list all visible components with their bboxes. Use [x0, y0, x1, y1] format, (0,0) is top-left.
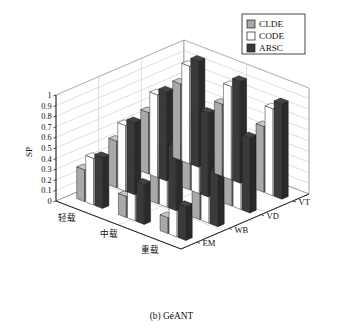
y-tick-label: 0.3 — [41, 165, 51, 174]
bar-side-face — [250, 135, 256, 213]
y-axis-title: SP — [24, 147, 34, 157]
z-depth-label-0: EM — [203, 238, 216, 248]
bar-side-face — [144, 181, 150, 224]
bar-front-face — [178, 204, 186, 241]
bar-side-face — [103, 155, 109, 209]
chart-figure: 00.10.20.30.40.50.60.70.80.91SP轻载中载重载EMW… — [0, 0, 343, 328]
y-tick-label: 0.8 — [41, 112, 51, 121]
bar-front-face — [86, 155, 94, 205]
bar-arsc-em-0 — [95, 152, 109, 209]
bar-front-face — [173, 81, 181, 160]
z-tick — [261, 215, 264, 216]
bar-arsc-em-2 — [178, 201, 192, 241]
bar-front-face — [159, 89, 167, 181]
bar-front-face — [191, 58, 199, 167]
bar-front-face — [109, 138, 117, 188]
legend-label-code: CODE — [259, 31, 284, 41]
z-depth-label-2: VD — [267, 211, 279, 221]
bar-arsc-vt-2 — [274, 98, 288, 199]
bar-front-face — [150, 92, 158, 178]
z-depth-label-3: VT — [299, 197, 311, 207]
bar-front-face — [265, 106, 273, 196]
legend-swatch-arsc — [247, 44, 255, 52]
y-tick-label: 0.9 — [41, 102, 51, 111]
y-tick-label: 0.4 — [41, 155, 52, 164]
z-tick — [293, 201, 296, 202]
z-tick — [197, 242, 200, 243]
bar-front-face — [182, 63, 190, 163]
legend-label-clde: CLDE — [259, 19, 283, 29]
bar-front-face — [232, 78, 240, 183]
x-category-label-2: 重载 — [141, 244, 159, 255]
y-tick-label: 0.2 — [41, 176, 51, 185]
figure-caption: (b) GéANT — [150, 311, 193, 321]
x-category-label-0: 轻载 — [58, 212, 76, 223]
bar-front-face — [136, 181, 144, 224]
bar-front-face — [200, 110, 208, 197]
bar-chart-3d: 00.10.20.30.40.50.60.70.80.91SP轻载中载重载EMW… — [0, 0, 343, 328]
z-depth-label-1: WB — [235, 225, 249, 235]
bar-front-face — [127, 120, 135, 195]
bar-side-face — [218, 169, 224, 227]
bar-front-face — [274, 101, 282, 199]
bar-front-face — [214, 101, 222, 176]
y-tick-label: 0.5 — [41, 144, 51, 153]
legend-label-arsc: ARSC — [259, 43, 283, 53]
x-category-label-1: 中载 — [100, 228, 118, 239]
bar-front-face — [95, 155, 103, 209]
bar-side-face — [282, 101, 288, 199]
y-tick-label: 0.1 — [41, 186, 51, 195]
bar-front-face — [160, 215, 168, 234]
legend-swatch-code — [247, 32, 255, 40]
legend: CLDECODEARSC — [242, 14, 305, 54]
bar-front-face — [141, 110, 149, 174]
z-tick — [229, 228, 232, 229]
bar-arsc-em-1 — [136, 178, 150, 224]
bar-side-face — [186, 204, 192, 241]
bar-front-face — [210, 169, 218, 227]
bar-front-face — [118, 123, 126, 192]
y-tick-label: 1 — [48, 91, 52, 100]
bar-front-face — [223, 83, 231, 179]
bar-front-face — [118, 193, 126, 217]
y-tick-label: 0 — [48, 197, 52, 206]
bar-front-face — [77, 167, 85, 202]
y-tick-label: 0.6 — [41, 133, 51, 142]
legend-swatch-clde — [247, 20, 255, 28]
y-tick — [53, 201, 56, 202]
bar-front-face — [256, 124, 264, 193]
y-tick-label: 0.7 — [41, 123, 51, 132]
bar-arsc-vd-2 — [242, 132, 256, 213]
bar-front-face — [242, 135, 250, 213]
